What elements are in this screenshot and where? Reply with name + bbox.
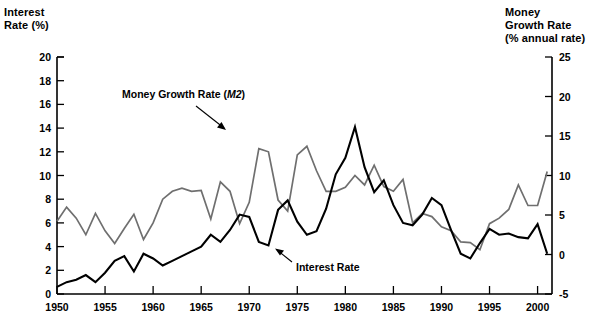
left-axis: 02468101214161820 — [39, 51, 64, 300]
x-axis-tick-label: 1995 — [478, 301, 502, 313]
x-axis-tick-label: 2000 — [526, 301, 550, 313]
right-axis-tick-label: 5 — [559, 209, 565, 221]
left-axis-tick-label: 2 — [45, 264, 51, 276]
left-axis-tick-label: 8 — [45, 193, 51, 205]
x-axis-tick-label: 1990 — [430, 301, 454, 313]
x-axis-tick-label: 1960 — [141, 301, 165, 313]
x-axis: 1950195519601965197019751980198519901995… — [45, 286, 552, 313]
right-axis-caption-line2: Growth Rate — [505, 19, 572, 31]
right-axis-tick-label: 15 — [559, 130, 571, 142]
x-axis-tick-label: 1985 — [382, 301, 406, 313]
money-growth-annotation: Money Growth Rate (M2) — [122, 88, 245, 100]
left-axis-tick-label: 0 — [45, 288, 51, 300]
left-axis-tick-label: 10 — [39, 170, 51, 182]
right-axis-caption-line1: Money — [505, 6, 540, 18]
x-axis-tick-label: 1975 — [286, 301, 310, 313]
right-axis-tick-label: -5 — [559, 288, 568, 300]
left-axis-caption-line1: Interest — [4, 6, 45, 18]
plot-area: 02468101214161820 -50510152025 195019551… — [0, 0, 605, 336]
left-axis-tick-label: 6 — [45, 217, 51, 229]
interest-rate-annotation: Interest Rate — [296, 261, 360, 273]
interest-rate-arrow-icon — [275, 249, 292, 263]
right-axis-tick-label: 10 — [559, 170, 571, 182]
x-axis-tick-label: 1970 — [238, 301, 262, 313]
right-axis-tick-label: 0 — [559, 249, 565, 261]
left-axis-tick-label: 12 — [39, 146, 51, 158]
right-axis-tick-label: 20 — [559, 91, 571, 103]
series-line-money-growth — [57, 146, 547, 249]
x-axis-tick-label: 1980 — [334, 301, 358, 313]
right-axis-tick-label: 25 — [559, 51, 571, 63]
left-axis-tick-label: 14 — [39, 122, 51, 134]
left-axis-tick-label: 4 — [45, 241, 51, 253]
left-axis-tick-label: 16 — [39, 98, 51, 110]
x-axis-tick-label: 1950 — [45, 301, 69, 313]
left-axis-tick-label: 18 — [39, 75, 51, 87]
right-axis-caption: MoneyGrowth Rate(% annual rate) — [505, 6, 585, 45]
right-axis: -50510152025 — [545, 51, 571, 300]
x-axis-tick-label: 1965 — [189, 301, 213, 313]
left-axis-caption: InterestRate (%) — [4, 6, 49, 32]
left-axis-caption-line2: Rate (%) — [4, 19, 49, 31]
chart-figure: InterestRate (%) MoneyGrowth Rate(% annu… — [0, 0, 605, 336]
right-axis-caption-line3: (% annual rate) — [505, 32, 585, 44]
money-growth-arrow-icon — [196, 106, 226, 130]
left-axis-tick-label: 20 — [39, 51, 51, 63]
x-axis-tick-label: 1955 — [93, 301, 117, 313]
